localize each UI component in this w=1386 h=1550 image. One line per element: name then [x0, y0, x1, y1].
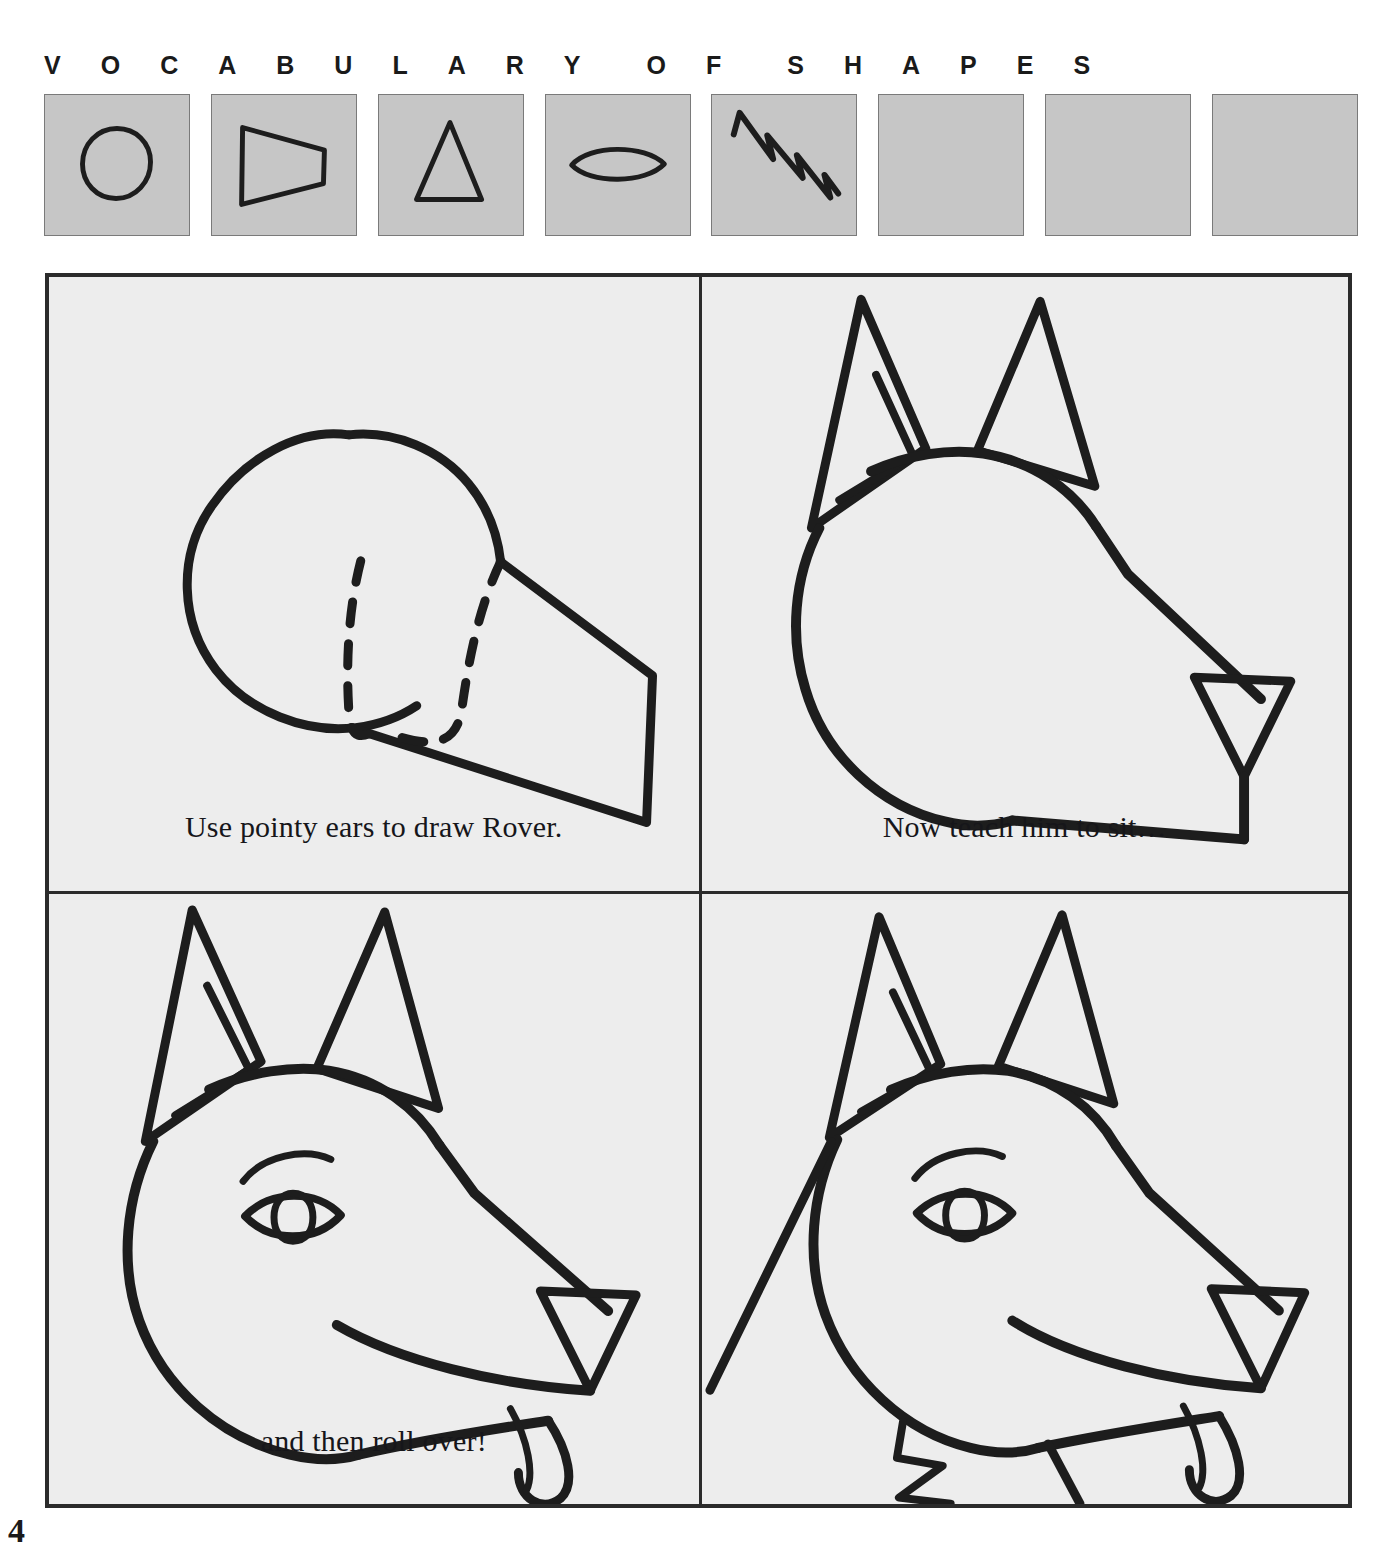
dog-head-with-ears-drawing — [702, 277, 1349, 891]
shape-swatch-zigzag[interactable] — [711, 94, 857, 236]
title-letter: A — [902, 53, 920, 78]
zigzag-shape-icon — [712, 95, 856, 235]
shape-swatch-trapezoid[interactable] — [211, 94, 357, 236]
title-letter: U — [334, 53, 352, 78]
dog-face-drawing — [49, 894, 699, 1505]
circle-shape-icon — [45, 95, 189, 235]
shape-swatch-triangle[interactable] — [378, 94, 524, 236]
title-letter: E — [1017, 53, 1034, 78]
joint-dot — [496, 557, 506, 567]
panel-body[interactable] — [699, 891, 1349, 1505]
panel-ears[interactable]: Now teach him to sit… — [699, 277, 1349, 891]
panel-caption: and then roll over! — [49, 1424, 699, 1458]
construction-drawing — [49, 277, 699, 891]
title-letter: Y — [564, 53, 581, 78]
title-letter: H — [844, 53, 862, 78]
title-letter: S — [787, 53, 804, 78]
page-number: 4 — [8, 1512, 48, 1550]
title-letter: O — [101, 53, 120, 78]
title-letter: P — [960, 53, 977, 78]
shape-swatch-empty-1[interactable] — [878, 94, 1024, 236]
shape-swatch-empty-2[interactable] — [1045, 94, 1191, 236]
empty-shape-icon — [879, 95, 1023, 235]
title-letter: O — [646, 53, 665, 78]
title-letter: S — [1073, 53, 1090, 78]
empty-shape-icon — [1213, 95, 1357, 235]
title-letter: A — [218, 53, 236, 78]
dog-body-drawing — [702, 894, 1349, 1505]
title-letter: L — [392, 53, 407, 78]
shape-swatch-circle[interactable] — [44, 94, 190, 236]
title-letter: F — [706, 53, 721, 78]
panel-face[interactable]: and then roll over! — [49, 891, 699, 1505]
title-letter: A — [448, 53, 466, 78]
panel-caption: Now teach him to sit… — [702, 810, 1349, 844]
shape-vocabulary-strip — [44, 94, 1358, 238]
drawing-steps-grid: Use pointy ears to draw Rover. Now teach… — [45, 273, 1352, 1508]
title-letter: C — [160, 53, 178, 78]
title-letter: B — [276, 53, 294, 78]
trapezoid-shape-icon — [212, 95, 356, 235]
page-title-vocabulary-of-shapes: V O C A B U L A R Y O F S H A P E S — [44, 48, 1358, 82]
triangle-shape-icon — [379, 95, 523, 235]
title-letter: R — [506, 53, 524, 78]
panel-caption: Use pointy ears to draw Rover. — [49, 810, 699, 844]
empty-shape-icon — [1046, 95, 1190, 235]
title-letter: V — [44, 53, 61, 78]
panel-construction[interactable]: Use pointy ears to draw Rover. — [49, 277, 699, 891]
shape-swatch-lens[interactable] — [545, 94, 691, 236]
shape-swatch-empty-3[interactable] — [1212, 94, 1358, 236]
lens-shape-icon — [546, 95, 690, 235]
